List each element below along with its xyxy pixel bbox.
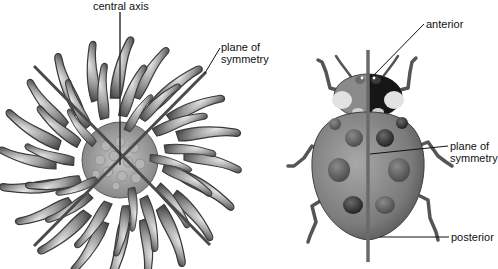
anterior-leader (373, 24, 424, 76)
label-bilateral-plane-of-symmetry: plane of symmetry (450, 140, 498, 164)
radial-organism-illustration (0, 12, 241, 269)
label-posterior: posterior (451, 231, 494, 243)
radial-plane-leader (205, 48, 220, 73)
ladybug-illustration (288, 24, 452, 262)
label-radial-plane-of-symmetry: plane of symmetry (221, 41, 269, 65)
label-anterior: anterior (426, 18, 463, 30)
label-central-axis: central axis (93, 0, 149, 12)
